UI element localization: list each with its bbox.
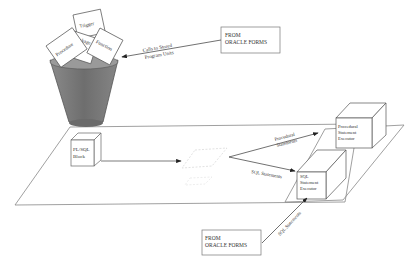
sql-label: SQL Statements [251, 169, 283, 179]
procedural-executor-line3: Executor [338, 136, 355, 141]
sql-executor: SQL Statement Executor [297, 150, 346, 199]
source-box-top: FROM ORACLE FORMS [221, 27, 280, 53]
source-bottom-line2: ORACLE FORMS [205, 242, 247, 248]
plsql-block-line1: PL/SQL [73, 147, 90, 152]
source-bottom-line1: FROM [205, 235, 221, 241]
sql-executor-line1: SQL [300, 174, 309, 179]
sql-executor-line2: Statement [300, 180, 319, 185]
plsql-block-line2: Block [73, 154, 85, 159]
source-box-bottom: FROM ORACLE FORMS [202, 230, 261, 255]
source-top-line1: FROM [225, 32, 241, 38]
procedural-arrow: Procedural Statements [229, 132, 318, 157]
procedural-executor-line1: Procedural [338, 124, 359, 129]
sql-executor-line3: Executor [300, 186, 317, 191]
sql-bottom-label: SQL Statements [277, 210, 302, 236]
source-top-line2: ORACLE FORMS [225, 39, 267, 45]
plsql-block: PL/SQL Block [71, 133, 101, 166]
procedural-executor-line2: Statement [338, 130, 357, 135]
sql-arrow: SQL Statements [229, 157, 295, 179]
sql-statements-bottom-arrow: SQL Statements [262, 198, 307, 243]
plsql-engine [182, 148, 227, 185]
calls-arrow: Calls to Stored Program Units [122, 40, 221, 60]
procedural-executor: Procedural Statement Executor [336, 103, 386, 148]
diagram-canvas: Trigger Package Procedure Function FROM … [0, 0, 418, 263]
